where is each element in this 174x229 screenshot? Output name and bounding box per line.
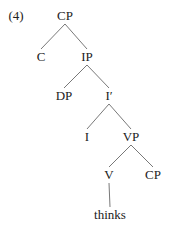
node-c: C bbox=[37, 50, 46, 64]
tree-edge bbox=[109, 104, 131, 129]
tree-edge bbox=[131, 145, 153, 167]
node-v: V bbox=[104, 168, 113, 182]
tree-edge bbox=[65, 24, 87, 49]
node-cp-root: CP bbox=[57, 9, 73, 23]
example-number: (4) bbox=[8, 9, 23, 23]
node-i-bar: I′ bbox=[105, 89, 112, 103]
node-dp: DP bbox=[56, 89, 73, 103]
node-i: I bbox=[85, 130, 89, 144]
tree-edge bbox=[109, 183, 110, 207]
tree-edge bbox=[87, 65, 109, 88]
leaf-thinks: thinks bbox=[94, 208, 126, 222]
node-ip: IP bbox=[81, 50, 93, 64]
tree-edges bbox=[0, 0, 174, 229]
tree-edge bbox=[109, 145, 131, 167]
syntax-tree-figure: (4) CP C IP DP I′ I VP V CP thinks bbox=[0, 0, 174, 229]
tree-edge bbox=[64, 65, 87, 88]
tree-edge bbox=[41, 24, 65, 49]
tree-edge bbox=[87, 104, 109, 129]
node-vp: VP bbox=[123, 130, 140, 144]
node-cp-embedded: CP bbox=[145, 168, 161, 182]
